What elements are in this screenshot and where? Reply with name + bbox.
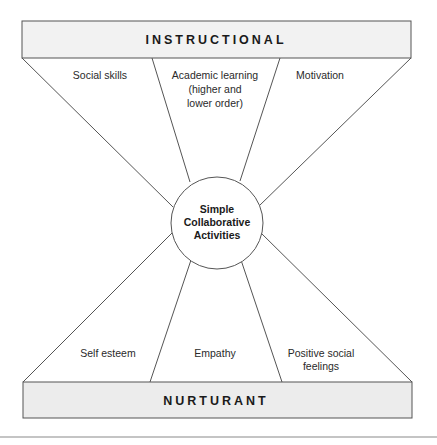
outcome-social-skills: Social skills [73,69,127,81]
hub-line-3: Activities [194,229,241,241]
nurturant-title: NURTURANT [163,394,268,408]
connector-bottom-inner-left [150,260,191,382]
outcome-positive-social-feelings-line-1: Positive social [288,347,355,359]
instructional-title: INSTRUCTIONAL [145,33,286,47]
outcome-motivation: Motivation [296,69,344,81]
connector-bottom-outer-left [23,232,173,382]
outcome-academic-learning-line-3: lower order) [187,97,243,109]
outcome-self-esteem: Self esteem [80,347,136,359]
connector-bottom-inner-right [241,260,282,382]
collaborative-activities-diagram: INSTRUCTIONAL NURTURANT Simple Collabora… [0,0,437,445]
outcome-empathy: Empathy [194,347,236,359]
outcome-positive-social-feelings-line-2: feelings [303,360,339,372]
hub-line-2: Collaborative [184,216,251,228]
outcome-academic-learning-line-1: Academic learning [172,69,259,81]
hub-line-1: Simple [200,203,235,215]
outcome-academic-learning-line-2: (higher and [188,83,241,95]
